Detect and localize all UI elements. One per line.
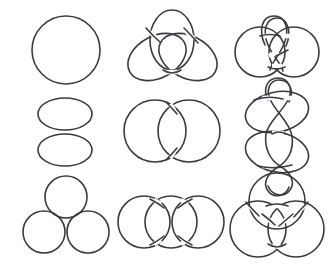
knot-diagram-figure: Knots and Links Diagram Grid Unknot Tref… xyxy=(0,0,331,265)
knot-grid xyxy=(0,0,331,265)
